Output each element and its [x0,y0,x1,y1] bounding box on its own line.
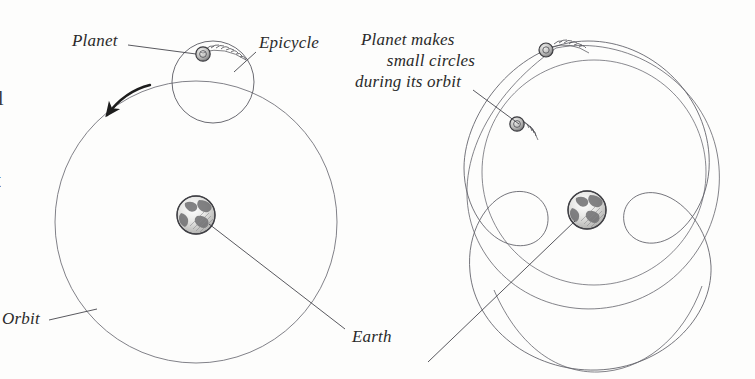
leader-planet [128,45,196,54]
planet-marker-right-top [539,43,553,57]
epitrochoid-outer-envelope [467,45,719,308]
leader-earth-left [209,224,345,329]
label-epicycle: Epicycle [259,33,319,54]
label-annotation-line-1: Planet makes [361,30,501,51]
label-annotation-line-2: small circles [361,51,501,72]
planet-marker-left [196,47,210,61]
figure-page: Planet Epicycle Orbit Planet makes small… [0,0,755,379]
earth-globe-right [568,191,606,229]
epitrochoid-inner-envelope [482,60,706,285]
edge-fragment-middle: t [0,168,1,193]
left-panel-group [49,41,345,363]
motion-direction-arrow[interactable] [107,85,150,115]
leader-earth-right [428,221,575,362]
earth-globe-left [177,196,215,234]
edge-fragment-top: ll [0,86,4,111]
label-annotation-line-3: during its orbit [355,72,495,93]
label-earth: Earth [352,327,392,348]
label-orbit: Orbit [2,309,40,330]
epitrochoid-lower-arc [494,286,702,372]
label-planet: Planet [72,31,118,52]
